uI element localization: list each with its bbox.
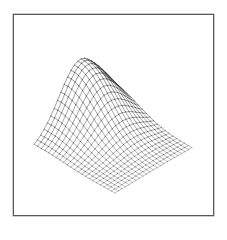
- mesh-line: [167, 153, 171, 155]
- mesh-line: [95, 140, 99, 145]
- mesh-line: [65, 86, 68, 94]
- mesh-line: [97, 89, 100, 92]
- mesh-line: [73, 134, 77, 138]
- mesh-line: [102, 131, 106, 136]
- mesh-line: [41, 129, 44, 135]
- mesh-line: [126, 127, 130, 133]
- mesh-line: [72, 93, 75, 101]
- mesh-line: [162, 132, 166, 135]
- mesh-line: [78, 161, 82, 164]
- mesh-line: [78, 63, 81, 67]
- mesh-line: [96, 166, 99, 169]
- mesh-line: [89, 80, 93, 86]
- mesh-line: [125, 176, 128, 178]
- mesh-line: [96, 178, 100, 180]
- mesh-line: [121, 169, 124, 171]
- mesh-line: [126, 125, 129, 127]
- mesh-line: [125, 183, 129, 185]
- mesh-line: [155, 129, 158, 130]
- mesh-line: [78, 167, 82, 169]
- mesh-line: [116, 126, 120, 132]
- mesh-line: [99, 145, 103, 149]
- mesh-line: [79, 86, 83, 91]
- mesh-line: [89, 63, 92, 64]
- mesh-line: [125, 178, 129, 180]
- mesh-line: [78, 61, 82, 63]
- mesh-line: [77, 150, 80, 154]
- mesh-line: [87, 120, 91, 125]
- mesh-line: [104, 187, 108, 189]
- mesh-line: [113, 143, 116, 146]
- mesh-line: [112, 110, 116, 117]
- mesh-line: [55, 127, 59, 130]
- mesh-line: [143, 117, 147, 121]
- mesh-line: [44, 137, 48, 139]
- mesh-line: [136, 176, 140, 178]
- mesh-line: [132, 178, 136, 180]
- mesh-line: [97, 99, 100, 103]
- mesh-line: [79, 76, 83, 80]
- mesh-line: [92, 68, 96, 73]
- mesh-line: [160, 155, 163, 157]
- mesh-line: [101, 99, 105, 106]
- mesh-line: [81, 136, 84, 141]
- mesh-line: [120, 147, 124, 151]
- mesh-line: [70, 139, 74, 142]
- mesh-line: [149, 146, 152, 148]
- mesh-line: [106, 141, 109, 145]
- mesh-line: [100, 176, 104, 178]
- mesh-line: [61, 94, 64, 102]
- mesh-line: [85, 172, 89, 174]
- mesh-line: [101, 110, 105, 117]
- mesh-line: [114, 163, 117, 166]
- mesh-line: [145, 150, 149, 153]
- mesh-line: [81, 150, 85, 153]
- mesh-line: [67, 152, 71, 155]
- mesh-line: [71, 167, 75, 169]
- mesh-line: [133, 124, 137, 129]
- mesh-line: [148, 137, 152, 141]
- mesh-line: [86, 176, 90, 178]
- mesh-line: [139, 165, 143, 168]
- mesh-line: [96, 160, 99, 163]
- mesh-line: [171, 155, 175, 157]
- mesh-line: [127, 142, 131, 146]
- mesh-line: [162, 135, 165, 136]
- mesh-line: [95, 136, 98, 141]
- mesh-line: [151, 126, 155, 130]
- mesh-line: [131, 156, 134, 158]
- mesh-line: [125, 174, 129, 176]
- mesh-line: [170, 140, 173, 142]
- mesh-line: [166, 138, 169, 140]
- mesh-line: [125, 180, 128, 182]
- mesh-line: [120, 140, 124, 145]
- mesh-line: [173, 136, 177, 139]
- mesh-line: [189, 148, 193, 150]
- mesh-line: [125, 171, 128, 173]
- mesh-line: [132, 164, 136, 167]
- mesh-line: [73, 138, 76, 143]
- mesh-line: [144, 132, 147, 133]
- mesh-line: [177, 145, 180, 147]
- mesh-line: [119, 114, 123, 121]
- mesh-line: [85, 61, 89, 64]
- mesh-line: [149, 153, 153, 156]
- mesh-line: [125, 166, 128, 168]
- mesh-line: [70, 155, 74, 158]
- mesh-line: [136, 112, 140, 117]
- mesh-line: [165, 131, 169, 134]
- mesh-line: [87, 102, 90, 108]
- mesh-line: [133, 118, 137, 124]
- mesh-line: [85, 166, 89, 169]
- mesh-line: [71, 162, 75, 165]
- mesh-line: [143, 165, 146, 167]
- mesh-line: [105, 132, 108, 136]
- mesh-line: [107, 185, 111, 187]
- mesh-line: [99, 166, 103, 169]
- mesh-line: [122, 113, 126, 119]
- mesh-line: [113, 135, 116, 138]
- mesh-line: [115, 99, 119, 106]
- mesh-line: [68, 70, 71, 77]
- mesh-line: [82, 75, 85, 80]
- mesh-line: [41, 144, 44, 148]
